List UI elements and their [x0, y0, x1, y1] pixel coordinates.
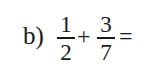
- denominator: 7: [97, 41, 115, 64]
- fraction-bar: [97, 37, 115, 39]
- fraction-one-half: 1 2: [57, 13, 75, 65]
- numerator: 1: [57, 13, 75, 36]
- problem-label: b): [23, 23, 44, 48]
- fraction-bar: [57, 37, 75, 39]
- plus-operator: +: [77, 24, 91, 48]
- denominator: 2: [57, 41, 75, 64]
- equals-sign: =: [119, 24, 133, 48]
- fraction-three-sevenths: 3 7: [97, 13, 115, 65]
- numerator: 3: [97, 13, 115, 36]
